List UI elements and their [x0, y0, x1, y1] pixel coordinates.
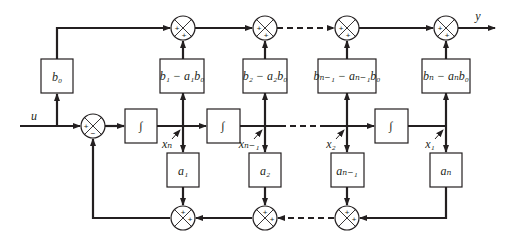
bottom-summer-1: + +: [171, 206, 195, 230]
b2-block: b₂ − a₂b₀: [243, 59, 288, 93]
feedback-return-wire: [93, 139, 170, 218]
top-summer-1: + +: [171, 16, 195, 40]
a2-block: a₂: [249, 153, 281, 187]
b1-block: b₁ − a₁b₀: [160, 59, 205, 93]
svg-text:+: +: [175, 24, 180, 33]
svg-text:+: +: [257, 24, 262, 33]
svg-text:aₙ: aₙ: [441, 164, 452, 178]
svg-text:a₁: a₁: [178, 164, 188, 178]
svg-text:bₙ₋₁ − aₙ₋₁b₀: bₙ₋₁ − aₙ₋₁b₀: [313, 69, 380, 83]
svg-text:∫: ∫: [138, 119, 143, 133]
svg-text:b₀: b₀: [52, 70, 62, 84]
svg-text:+: +: [84, 122, 89, 131]
bn-block: bₙ − aₙb₀: [422, 59, 470, 93]
svg-text:+: +: [182, 31, 187, 40]
svg-text:bₙ − aₙb₀: bₙ − aₙb₀: [423, 69, 469, 83]
a1-block: a₁: [167, 153, 199, 187]
top-summer-4: + +: [434, 16, 458, 40]
svg-text:+: +: [181, 208, 186, 217]
svg-text:+: +: [346, 31, 351, 40]
svg-text:aₙ₋₁: aₙ₋₁: [336, 164, 357, 178]
svg-text:+: +: [339, 24, 344, 33]
bottom-summer-2: + +: [253, 206, 277, 230]
an1-block: aₙ₋₁: [331, 153, 364, 187]
svg-text:+: +: [445, 31, 450, 40]
svg-text:+: +: [345, 208, 350, 217]
svg-text:+: +: [352, 215, 357, 224]
state-label-xn1: xₙ₋₁: [238, 137, 260, 151]
svg-text:b₁ − a₁b₀: b₁ − a₁b₀: [160, 69, 205, 83]
svg-text:+: +: [263, 208, 268, 217]
svg-text:∫: ∫: [220, 119, 225, 133]
svg-text:a₂: a₂: [260, 164, 270, 178]
input-summer: + −: [81, 114, 105, 138]
top-summer-2: + +: [253, 16, 277, 40]
top-summer-3: + +: [335, 16, 359, 40]
integrator-n: ∫: [375, 109, 408, 143]
output-label: y: [474, 9, 481, 23]
x1-pointer: [435, 130, 443, 139]
integrator-2: ∫: [207, 109, 240, 143]
svg-text:+: +: [270, 215, 275, 224]
svg-text:+: +: [188, 215, 193, 224]
integrator-1: ∫: [125, 109, 157, 143]
an-feedback-wire: [360, 187, 446, 218]
b0-block: b₀: [41, 59, 73, 93]
b0-output-wire: [57, 28, 170, 59]
svg-text:+: +: [438, 24, 443, 33]
block-diagram: b₀ b₁ − a₁b₀ b₂ − a₂b₀ bₙ₋₁ − aₙ₋₁b₀ bₙ …: [0, 0, 511, 249]
an-block: aₙ: [430, 153, 462, 187]
bottom-summer-3: + +: [335, 206, 359, 230]
state-label-x2: x₂: [325, 137, 336, 151]
bn1-block: bₙ₋₁ − aₙ₋₁b₀: [313, 59, 380, 93]
svg-text:+: +: [264, 31, 269, 40]
state-label-xn: xₙ: [161, 137, 172, 151]
svg-text:−: −: [91, 129, 96, 138]
svg-text:∫: ∫: [388, 119, 393, 133]
svg-text:b₂ − a₂b₀: b₂ − a₂b₀: [243, 69, 288, 83]
xn-pointer: [172, 130, 180, 139]
input-label: u: [31, 109, 37, 123]
x2-pointer: [336, 130, 344, 139]
state-label-x1: x₁: [424, 137, 435, 151]
